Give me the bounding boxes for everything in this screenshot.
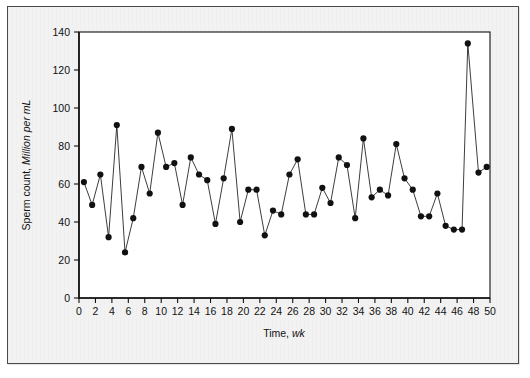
data-point — [97, 171, 103, 177]
x-tick-label: 22 — [254, 305, 266, 317]
data-point — [221, 175, 227, 181]
data-point — [138, 164, 144, 170]
data-point — [237, 219, 243, 225]
x-axis-title: Time,wk — [263, 327, 305, 339]
data-point — [163, 164, 169, 170]
x-tick-label: 20 — [238, 305, 250, 317]
y-axis-title: Sperm count,Million per mL — [20, 99, 32, 230]
data-point — [81, 179, 87, 185]
x-tick-label: 24 — [270, 305, 282, 317]
data-point — [196, 171, 202, 177]
data-point — [319, 185, 325, 191]
y-tick-label: 100 — [52, 102, 70, 114]
data-point — [204, 177, 210, 183]
data-point — [385, 192, 391, 198]
data-point — [465, 40, 471, 46]
x-tick-label: 42 — [418, 305, 430, 317]
data-point — [336, 154, 342, 160]
y-axis-tick-labels: 020406080100120140 — [52, 26, 70, 304]
x-tick-label: 50 — [484, 305, 496, 317]
data-point — [303, 211, 309, 217]
x-tick-label: 6 — [125, 305, 131, 317]
y-tick-label: 80 — [58, 140, 70, 152]
x-tick-label: 32 — [336, 305, 348, 317]
x-tick-label: 46 — [451, 305, 463, 317]
data-point — [360, 135, 366, 141]
sperm-count-line-chart: 020406080100120140 024681012141618202224… — [8, 7, 518, 363]
data-point — [311, 211, 317, 217]
data-point — [418, 213, 424, 219]
x-tick-label: 10 — [155, 305, 167, 317]
y-tick-label: 120 — [52, 64, 70, 76]
y-tick-label: 20 — [58, 254, 70, 266]
data-point — [459, 227, 465, 233]
x-tick-label: 40 — [402, 305, 414, 317]
data-point — [393, 141, 399, 147]
data-point — [122, 249, 128, 255]
x-tick-label: 26 — [287, 305, 299, 317]
data-point — [286, 171, 292, 177]
data-point — [262, 232, 268, 238]
data-point — [253, 187, 259, 193]
x-tick-label: 0 — [76, 305, 82, 317]
data-point — [89, 202, 95, 208]
data-point — [377, 187, 383, 193]
y-tick-label: 60 — [58, 178, 70, 190]
data-point — [327, 200, 333, 206]
y-tick-label: 40 — [58, 216, 70, 228]
data-point — [147, 190, 153, 196]
data-point — [475, 170, 481, 176]
data-point — [171, 160, 177, 166]
x-tick-label: 36 — [369, 305, 381, 317]
data-point — [130, 215, 136, 221]
x-tick-label: 28 — [303, 305, 315, 317]
data-point — [434, 190, 440, 196]
x-tick-label: 38 — [386, 305, 398, 317]
x-tick-label: 2 — [93, 305, 99, 317]
data-point — [451, 227, 457, 233]
data-point — [270, 208, 276, 214]
data-point — [443, 223, 449, 229]
x-tick-label: 18 — [221, 305, 233, 317]
x-tick-label: 48 — [468, 305, 480, 317]
figure-container: 020406080100120140 024681012141618202224… — [0, 0, 530, 378]
data-point — [229, 126, 235, 132]
data-point — [179, 202, 185, 208]
x-tick-label: 12 — [172, 305, 184, 317]
y-tick-label: 0 — [64, 292, 70, 304]
data-point — [114, 122, 120, 128]
data-point — [245, 187, 251, 193]
data-point — [105, 234, 111, 240]
data-point — [352, 215, 358, 221]
x-tick-label: 14 — [188, 305, 200, 317]
data-point — [278, 211, 284, 217]
data-point — [410, 187, 416, 193]
data-point — [401, 175, 407, 181]
x-tick-label: 4 — [109, 305, 115, 317]
data-point — [426, 213, 432, 219]
data-point — [212, 221, 218, 227]
x-axis-tick-labels: 0246810121416182022242628303234363840424… — [76, 305, 496, 317]
data-point — [155, 130, 161, 136]
chart-panel: 020406080100120140 024681012141618202224… — [7, 6, 519, 364]
data-point — [344, 162, 350, 168]
x-tick-label: 44 — [435, 305, 447, 317]
x-tick-label: 16 — [205, 305, 217, 317]
data-point — [295, 156, 301, 162]
data-point — [369, 194, 375, 200]
x-tick-label: 8 — [142, 305, 148, 317]
data-point — [484, 164, 490, 170]
x-tick-label: 34 — [353, 305, 365, 317]
x-tick-label: 30 — [320, 305, 332, 317]
y-tick-label: 140 — [52, 26, 70, 38]
data-point — [188, 154, 194, 160]
